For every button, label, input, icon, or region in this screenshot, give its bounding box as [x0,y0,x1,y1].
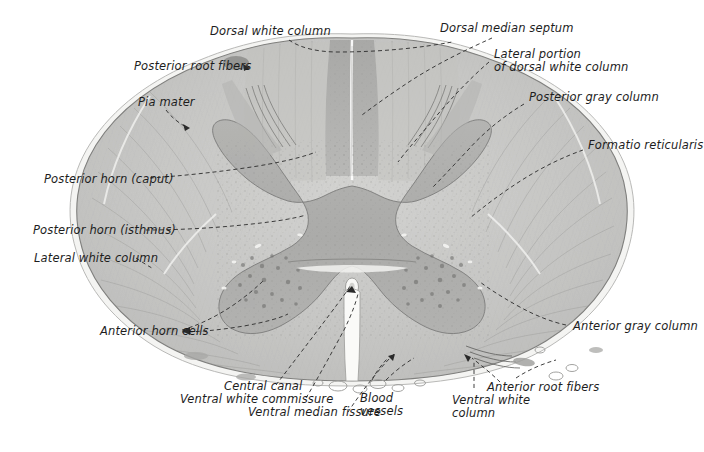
label-anterior-root-fibers: Anterior root fibers [487,381,599,394]
label-ventral-white-column-line2: column [452,407,495,420]
ventral-median-fissure [344,289,360,381]
label-formatio-reticularis: Formatio reticularis [588,139,703,152]
label-posterior-gray-column: Posterior gray column [529,91,659,104]
label-pia-mater: Pia mater [138,96,195,109]
label-posterior-horn-isthmus: Posterior horn (isthmus) [33,224,176,237]
figure-page: Dorsal white column Dorsal median septum… [0,0,704,452]
label-lateral-portion-line2: of dorsal white column [494,61,628,74]
label-blood-vessels-line2: vessels [360,405,403,418]
label-posterior-horn-caput: Posterior horn (caput) [44,173,174,186]
cord-specimen [70,30,640,393]
label-anterior-horn-cells: Anterior horn cells [100,325,209,338]
label-posterior-root-fibers: Posterior root fibers [134,60,251,73]
label-anterior-gray-column: Anterior gray column [573,320,698,333]
label-dorsal-white-column: Dorsal white column [210,25,331,38]
label-lateral-white-column: Lateral white column [34,252,158,265]
label-dorsal-median-septum: Dorsal median septum [440,22,574,35]
